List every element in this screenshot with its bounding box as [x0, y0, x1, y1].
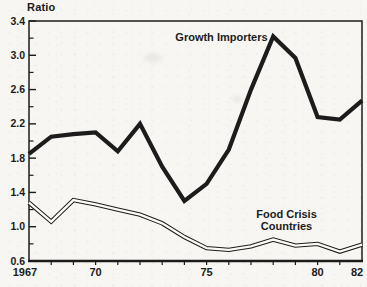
y-tick-label: 3.0 — [10, 49, 25, 61]
y-tick-label: 1.0 — [10, 220, 25, 232]
ratio-line-chart: 0.61.01.41.82.22.63.03.4196770758082Grow… — [0, 0, 367, 287]
y-tick-label: 1.8 — [10, 152, 25, 164]
y-tick-label: 2.2 — [10, 117, 25, 129]
x-tick-label: 75 — [200, 266, 212, 278]
series-label: Growth Importers — [175, 31, 267, 43]
x-tick-label: 80 — [311, 266, 323, 278]
y-tick-label: 2.6 — [10, 83, 25, 95]
scanned-line-chart-figure: Ratio 0.61.01.41.82.22.63.03.41967707580… — [0, 0, 367, 287]
x-tick-label: 70 — [89, 266, 101, 278]
x-tick-label: 1967 — [13, 266, 37, 278]
series-line-growth-importers — [29, 36, 362, 201]
y-tick-label: 0.6 — [10, 255, 25, 267]
series-label: Food Crisis — [256, 208, 317, 220]
series-label: Countries — [261, 220, 312, 232]
x-tick-label: 82 — [351, 266, 363, 278]
y-tick-label: 1.4 — [10, 186, 25, 198]
y-tick-label: 3.4 — [10, 15, 25, 27]
